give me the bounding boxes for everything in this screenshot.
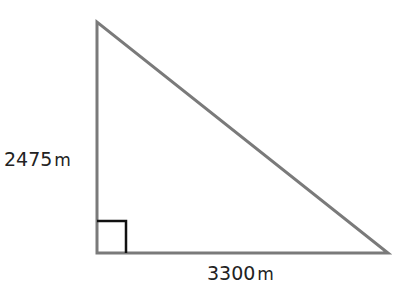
horizontal-leg-unit: m: [257, 264, 274, 284]
right-triangle: [97, 22, 388, 253]
right-angle-marker: [97, 221, 126, 253]
horizontal-leg-label: 3300m: [207, 262, 274, 284]
vertical-leg-unit: m: [54, 150, 71, 170]
horizontal-leg-value: 3300: [207, 262, 255, 284]
vertical-leg-value: 2475: [4, 148, 52, 170]
vertical-leg-label: 2475m: [4, 148, 71, 170]
